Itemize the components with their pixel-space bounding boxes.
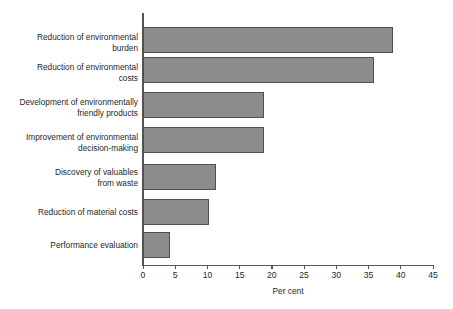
bar-row bbox=[143, 92, 433, 118]
bar-row bbox=[143, 57, 433, 83]
x-tick-label: 0 bbox=[131, 270, 155, 280]
x-tick-mark bbox=[400, 265, 401, 269]
bar-4 bbox=[143, 164, 216, 190]
x-tick-mark bbox=[143, 265, 144, 269]
bar-chart: Reduction of environmental burden Reduct… bbox=[0, 0, 453, 309]
x-tick-mark bbox=[336, 265, 337, 269]
bar-5 bbox=[143, 199, 209, 225]
bar-row bbox=[143, 232, 433, 258]
x-tick-label: 25 bbox=[292, 270, 316, 280]
bar-3 bbox=[143, 127, 264, 153]
x-tick-mark bbox=[368, 265, 369, 269]
category-label-3: Improvement of environmental decision-ma… bbox=[0, 132, 138, 153]
bar-row bbox=[143, 199, 433, 225]
bar-row bbox=[143, 164, 433, 190]
category-label-5: Reduction of material costs bbox=[0, 207, 138, 218]
category-label-1: Reduction of environmental costs bbox=[0, 62, 138, 83]
x-tick-mark bbox=[175, 265, 176, 269]
category-label-6: Performance evaluation bbox=[0, 240, 138, 251]
x-tick-mark bbox=[304, 265, 305, 269]
category-label-4: Discovery of valuables from waste bbox=[0, 167, 138, 188]
x-tick-label: 20 bbox=[260, 270, 284, 280]
x-tick-label: 15 bbox=[228, 270, 252, 280]
x-tick-label: 35 bbox=[357, 270, 381, 280]
bar-row bbox=[143, 127, 433, 153]
x-axis-line bbox=[142, 265, 433, 266]
x-axis-title: Per cent bbox=[143, 286, 433, 296]
x-tick-mark bbox=[271, 265, 272, 269]
bar-0 bbox=[143, 27, 393, 53]
x-tick-label: 40 bbox=[389, 270, 413, 280]
x-tick-label: 10 bbox=[195, 270, 219, 280]
bar-row bbox=[143, 27, 433, 53]
x-tick-label: 30 bbox=[324, 270, 348, 280]
x-tick-mark bbox=[239, 265, 240, 269]
x-tick-mark bbox=[433, 265, 434, 269]
bar-6 bbox=[143, 232, 170, 258]
category-label-2: Development of environmentally friendly … bbox=[0, 97, 138, 118]
category-label-0: Reduction of environmental burden bbox=[0, 32, 138, 53]
bar-2 bbox=[143, 92, 264, 118]
x-tick-label: 5 bbox=[163, 270, 187, 280]
bar-1 bbox=[143, 57, 374, 83]
x-tick-mark bbox=[207, 265, 208, 269]
x-tick-label: 45 bbox=[421, 270, 445, 280]
